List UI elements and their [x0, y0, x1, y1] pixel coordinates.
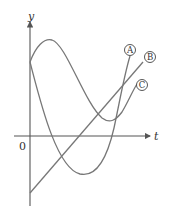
origin-label: 0 — [19, 140, 26, 153]
svg-text:C: C — [139, 80, 146, 90]
svg-text:A: A — [126, 45, 134, 55]
line-b — [30, 62, 143, 193]
label-a: A — [125, 45, 136, 56]
curve-c — [30, 40, 137, 121]
graph-figure: y t 0 A B C — [0, 0, 172, 214]
y-axis-label: y — [27, 10, 35, 23]
label-b: B — [145, 52, 156, 63]
curve-a — [30, 56, 130, 174]
svg-text:B: B — [147, 52, 153, 62]
t-axis-label: t — [154, 130, 159, 143]
label-c: C — [137, 80, 148, 91]
